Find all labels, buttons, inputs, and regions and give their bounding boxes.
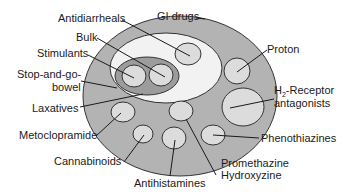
proton-circle [224,58,250,84]
label-antihistamines: Antihistamines [134,177,206,189]
gi-drugs-diagram: GI drugs Antidiarrheals Bulk Stimulants … [0,0,353,192]
label-bulk: Bulk [76,31,98,43]
label-stop-and-go-line2: bowel [52,81,81,93]
label-hydroxyzine: Hydroxyzine [221,169,282,181]
cannabinoids-circle [133,125,153,143]
label-promethazine: Promethazine [221,157,289,169]
label-metoclopramide: Metoclopramide [19,129,97,141]
antidiarrheals-circle [175,43,201,65]
label-antidiarrheals: Antidiarrheals [58,12,126,24]
promethazine-circle [169,101,193,121]
label-phenothiazines: Phenothiazines [261,132,337,144]
label-h2-receptor: H2-Receptor [274,84,334,98]
h2-receptor-circle [222,88,264,126]
label-proton: Proton [267,43,299,55]
label-gi-drugs: GI drugs [157,10,200,22]
label-cannabinoids: Cannabinoids [54,155,122,167]
label-h2-antagonists: antagonists [274,97,331,109]
label-stop-and-go-line1: Stop-and-go- [17,68,82,80]
label-laxatives: Laxatives [32,102,79,114]
label-stimulants: Stimulants [37,47,89,59]
stimulants-circle [122,65,146,87]
